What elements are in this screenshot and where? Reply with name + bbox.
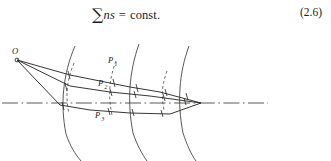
light-rays (17, 60, 201, 114)
wavefront-6-arc (180, 46, 196, 161)
ray-upper (17, 60, 201, 103)
label-P3-base: P (94, 110, 100, 120)
label-O: O (12, 46, 18, 56)
label-P1: P 1 (107, 55, 118, 67)
equation-equals-sign: = (119, 8, 126, 22)
wavefront-4-arc (130, 44, 147, 161)
wavefront-2-arc (63, 46, 81, 161)
label-P3: P 3 (94, 110, 105, 122)
label-P1-subscript: 1 (115, 61, 118, 67)
optics-figure: O P 1 P 2 P 3 (0, 34, 331, 161)
wavefront-arcs (63, 44, 196, 161)
wavefront-5-arc (162, 71, 167, 110)
summation-icon: ∑ (92, 5, 104, 24)
label-P2-base: P (97, 78, 103, 88)
equation-right-side: const. (130, 8, 160, 22)
ray-middle (17, 60, 201, 103)
label-P1-base: P (107, 55, 113, 65)
label-P2-subscript: 2 (105, 84, 108, 90)
caption-strip (0, 154, 331, 161)
label-O-text: O (12, 46, 18, 56)
equation-row: ∑ns=const. (2.6) (0, 0, 331, 34)
label-P3-subscript: 3 (101, 116, 105, 122)
figure-page: ∑ns=const. (2.6) (0, 0, 331, 161)
equation-expression: ∑ns=const. (92, 5, 160, 24)
wavefront-3-arc (110, 61, 116, 115)
equation-variables: ns (104, 8, 115, 22)
equation-number: (2.6) (300, 6, 322, 18)
label-P2: P 2 (97, 78, 108, 90)
